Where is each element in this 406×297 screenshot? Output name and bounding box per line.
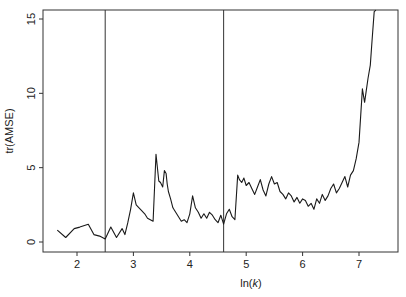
x-tick-label: 5 <box>243 258 249 270</box>
x-axis-title: ln(k) <box>240 277 261 289</box>
x-tick-label: 3 <box>130 258 136 270</box>
y-tick-label: 10 <box>25 87 37 99</box>
chart: 234567 051015 ln(k) tr(AMSE) <box>0 0 406 297</box>
vertical-reference-lines <box>105 10 223 252</box>
y-tick-label: 15 <box>25 13 37 25</box>
y-tick-label: 0 <box>25 239 37 245</box>
x-tick-label: 4 <box>187 258 193 270</box>
x-tick-label: 2 <box>74 258 80 270</box>
y-axis-title: tr(AMSE) <box>3 108 15 153</box>
x-tick-label: 6 <box>300 258 306 270</box>
y-axis: 051015 <box>25 13 43 245</box>
x-tick-label: 7 <box>356 258 362 270</box>
x-axis: 234567 <box>74 252 362 270</box>
y-tick-label: 5 <box>25 165 37 171</box>
